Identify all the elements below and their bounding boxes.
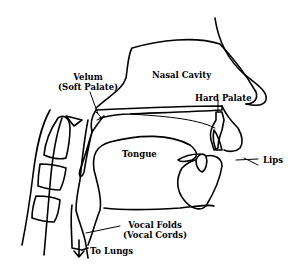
label-hard-palate: Hard Palate	[195, 93, 252, 103]
vocal-tract-diagram: Nasal Cavity Velum (Soft Palate) Hard Pa…	[0, 0, 296, 273]
label-velum: Velum (Soft Palate)	[58, 72, 118, 92]
upper-teeth	[210, 112, 224, 150]
vocal-folds-pointer	[86, 226, 120, 233]
pharynx-front-wall	[76, 120, 88, 258]
pharynx-back-wall	[44, 118, 62, 255]
label-tongue: Tongue	[122, 149, 157, 159]
label-velum-alt: (Soft Palate)	[58, 82, 118, 92]
lips-pointer-lower	[236, 159, 258, 160]
velum-flap	[96, 112, 102, 120]
label-vocal-folds-name: Vocal Folds	[122, 220, 188, 230]
label-to-lungs: To Lungs	[90, 246, 133, 256]
velum-pointer	[90, 92, 98, 114]
label-vocal-folds: Vocal Folds (Vocal Cords)	[122, 220, 188, 240]
lower-teeth	[196, 154, 207, 172]
label-vocal-folds-alt: (Vocal Cords)	[122, 230, 188, 240]
vertebra-3	[32, 196, 60, 222]
palate-ridge	[130, 114, 215, 128]
upper-lip	[222, 106, 242, 151]
label-lips: Lips	[263, 155, 283, 165]
label-nasal-cavity: Nasal Cavity	[152, 70, 211, 80]
label-velum-name: Velum	[58, 72, 118, 82]
lower-jaw	[178, 155, 222, 208]
